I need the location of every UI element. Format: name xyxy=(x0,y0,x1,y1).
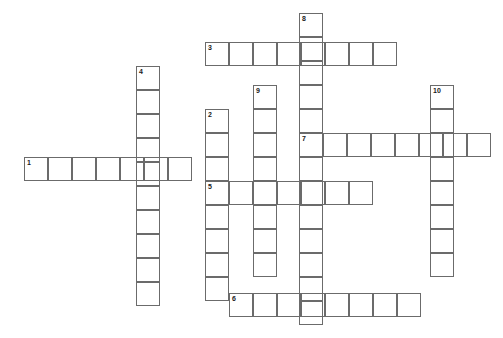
crossword-cell[interactable] xyxy=(371,133,395,157)
crossword-clue-number-7: 7 xyxy=(302,135,306,143)
crossword-cell[interactable]: 1 xyxy=(24,157,48,181)
crossword-cell[interactable] xyxy=(136,186,160,210)
crossword-clue-number-9: 9 xyxy=(256,87,260,95)
crossword-cell[interactable] xyxy=(205,229,229,253)
crossword-cell[interactable] xyxy=(205,277,229,301)
crossword-cell[interactable] xyxy=(430,229,454,253)
crossword-cell[interactable] xyxy=(277,42,301,66)
crossword-cell[interactable] xyxy=(72,157,96,181)
crossword-cell[interactable] xyxy=(430,181,454,205)
crossword-cell[interactable] xyxy=(205,253,229,277)
crossword-cell[interactable] xyxy=(299,157,323,181)
crossword-cell[interactable] xyxy=(136,114,160,138)
crossword-cell[interactable] xyxy=(229,181,253,205)
crossword-cell[interactable]: 5 xyxy=(205,181,229,205)
crossword-cell[interactable] xyxy=(397,293,421,317)
crossword-cell[interactable] xyxy=(373,293,397,317)
crossword-cell[interactable] xyxy=(277,293,301,317)
crossword-cell[interactable] xyxy=(299,253,323,277)
crossword-clue-number-3: 3 xyxy=(208,44,212,52)
crossword-cell[interactable] xyxy=(299,181,323,205)
crossword-cell[interactable] xyxy=(325,181,349,205)
crossword-cell[interactable] xyxy=(347,133,371,157)
crossword-cell[interactable] xyxy=(136,258,160,282)
crossword-cell[interactable] xyxy=(430,157,454,181)
crossword-cell[interactable] xyxy=(373,42,397,66)
crossword-cell[interactable] xyxy=(168,157,192,181)
crossword-cell[interactable] xyxy=(325,293,349,317)
crossword-cell[interactable] xyxy=(299,277,323,301)
crossword-cell[interactable]: 4 xyxy=(136,66,160,90)
crossword-cell[interactable] xyxy=(253,157,277,181)
crossword-cell[interactable] xyxy=(253,42,277,66)
crossword-cell[interactable] xyxy=(205,133,229,157)
crossword-cell[interactable] xyxy=(48,157,72,181)
crossword-cell[interactable] xyxy=(136,162,160,186)
crossword-cell[interactable] xyxy=(253,253,277,277)
crossword-cell[interactable] xyxy=(253,181,277,205)
crossword-cell[interactable]: 10 xyxy=(430,85,454,109)
crossword-cell[interactable] xyxy=(253,205,277,229)
crossword-cell[interactable] xyxy=(325,42,349,66)
crossword-cell[interactable] xyxy=(349,181,373,205)
crossword-cell[interactable] xyxy=(430,205,454,229)
crossword-cell[interactable] xyxy=(299,37,323,61)
crossword-cell[interactable] xyxy=(229,42,253,66)
crossword-cell[interactable] xyxy=(299,61,323,85)
crossword-clue-number-8: 8 xyxy=(302,15,306,23)
crossword-cell[interactable] xyxy=(253,109,277,133)
crossword-cell[interactable]: 9 xyxy=(253,85,277,109)
crossword-cell[interactable]: 8 xyxy=(299,13,323,37)
crossword-cell[interactable] xyxy=(299,205,323,229)
crossword-cell[interactable] xyxy=(467,133,491,157)
crossword-cell[interactable] xyxy=(430,133,454,157)
crossword-cell[interactable] xyxy=(430,253,454,277)
crossword-clue-number-10: 10 xyxy=(433,87,441,95)
crossword-cell[interactable] xyxy=(349,293,373,317)
crossword-puzzle: 12534678910 xyxy=(0,0,503,338)
crossword-cell[interactable] xyxy=(299,301,323,325)
crossword-cell[interactable] xyxy=(277,181,301,205)
crossword-clue-number-1: 1 xyxy=(27,159,31,167)
crossword-cell[interactable] xyxy=(253,133,277,157)
crossword-clue-number-2: 2 xyxy=(208,111,212,119)
crossword-cell[interactable]: 3 xyxy=(205,42,229,66)
crossword-cell[interactable] xyxy=(96,157,120,181)
crossword-cell[interactable] xyxy=(136,234,160,258)
crossword-clue-number-5: 5 xyxy=(208,183,212,191)
crossword-cell[interactable] xyxy=(205,157,229,181)
crossword-cell[interactable] xyxy=(253,293,277,317)
crossword-cell[interactable]: 2 xyxy=(205,109,229,133)
crossword-cell[interactable] xyxy=(299,229,323,253)
crossword-cell[interactable]: 7 xyxy=(299,133,323,157)
crossword-cell[interactable] xyxy=(136,282,160,306)
crossword-cell[interactable]: 6 xyxy=(229,293,253,317)
crossword-cell[interactable] xyxy=(299,109,323,133)
crossword-cell[interactable] xyxy=(136,210,160,234)
crossword-cell[interactable] xyxy=(205,205,229,229)
crossword-cell[interactable] xyxy=(349,42,373,66)
crossword-clue-number-6: 6 xyxy=(232,295,236,303)
crossword-cell[interactable] xyxy=(253,229,277,253)
crossword-cell[interactable] xyxy=(323,133,347,157)
crossword-cell[interactable] xyxy=(395,133,419,157)
crossword-clue-number-4: 4 xyxy=(139,68,143,76)
crossword-cell[interactable] xyxy=(136,90,160,114)
crossword-grid[interactable]: 12534678910 xyxy=(0,0,503,338)
crossword-cell[interactable] xyxy=(299,85,323,109)
crossword-cell[interactable] xyxy=(430,109,454,133)
crossword-cell[interactable] xyxy=(136,138,160,162)
